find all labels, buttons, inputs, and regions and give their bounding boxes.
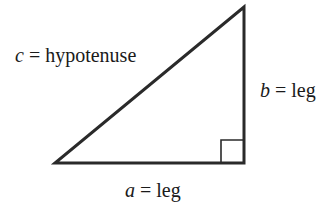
hypotenuse-text: hypotenuse — [45, 44, 136, 67]
vertical-leg-text: leg — [291, 79, 315, 102]
hypotenuse-variable: c — [15, 44, 24, 66]
vertical-leg-label: b = leg — [260, 79, 316, 102]
equals-sign: = — [270, 79, 291, 101]
hypotenuse-label: c = hypotenuse — [15, 44, 136, 67]
right-angle-marker — [221, 140, 244, 163]
horizontal-leg-text: leg — [156, 179, 180, 202]
horizontal-leg-label: a = leg — [125, 179, 181, 202]
right-triangle-diagram: c = hypotenuse b = leg a = leg — [0, 0, 334, 212]
horizontal-leg-variable: a — [125, 179, 135, 201]
equals-sign: = — [135, 179, 156, 201]
triangle-outline — [55, 7, 244, 163]
vertical-leg-variable: b — [260, 79, 270, 101]
equals-sign: = — [24, 44, 45, 66]
